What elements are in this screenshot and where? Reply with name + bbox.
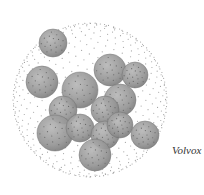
cell-dot <box>125 142 126 143</box>
cell-dot <box>86 44 87 45</box>
cell-dot <box>127 32 128 33</box>
cell-dot <box>70 162 71 163</box>
cell-dot <box>36 155 37 156</box>
daughter-colony <box>131 121 159 149</box>
cell-dot <box>94 48 95 49</box>
cell-dot <box>130 165 131 166</box>
cell-dot <box>146 84 147 85</box>
cell-dot <box>104 24 105 25</box>
cell-dot <box>163 78 164 79</box>
cell-dot <box>96 24 97 25</box>
cell-dot <box>157 71 158 72</box>
cell-dot <box>40 158 41 159</box>
cell-dot <box>32 139 33 140</box>
cell-dot <box>123 47 124 48</box>
cell-dot <box>114 28 115 29</box>
cell-dot <box>95 23 96 24</box>
cell-dot <box>72 168 73 169</box>
cell-dot <box>79 176 80 177</box>
cell-dot <box>144 52 145 53</box>
cell-dot <box>99 176 100 177</box>
cell-dot <box>115 43 116 44</box>
cell-dot <box>16 78 17 79</box>
cell-dot <box>153 113 154 114</box>
cell-dot <box>126 167 127 168</box>
cell-dot <box>28 93 29 94</box>
cell-dot <box>21 134 22 135</box>
cell-dot <box>132 163 133 164</box>
cell-dot <box>13 109 14 110</box>
cell-dot <box>111 166 112 167</box>
cell-dot <box>158 92 159 93</box>
cell-dot <box>102 51 103 52</box>
cell-dot <box>80 40 81 41</box>
cell-dot <box>110 170 111 171</box>
cell-dot <box>105 173 106 174</box>
cell-dot <box>159 68 160 69</box>
cell-dot <box>123 151 124 152</box>
cell-dot <box>64 165 65 166</box>
cell-dot <box>30 149 31 150</box>
cell-dot <box>142 155 143 156</box>
cell-dot <box>126 33 127 34</box>
cell-dot <box>130 34 131 35</box>
cell-dot <box>47 152 48 153</box>
cell-dot <box>26 57 27 58</box>
cell-dot <box>131 50 132 51</box>
cell-dot <box>86 175 87 176</box>
cell-dot <box>22 63 23 64</box>
cell-dot <box>82 24 83 25</box>
cell-dot <box>104 28 105 29</box>
cell-dot <box>136 153 137 154</box>
cell-dot <box>161 127 162 128</box>
cell-dot <box>78 23 79 24</box>
cell-dot <box>128 158 129 159</box>
cell-dot <box>100 36 101 37</box>
cell-dot <box>161 74 162 75</box>
cell-dot <box>34 152 35 153</box>
cell-dot <box>135 42 136 43</box>
cell-dot <box>86 69 87 70</box>
cell-dot <box>107 174 108 175</box>
cell-dot <box>105 26 106 27</box>
cell-dot <box>141 46 142 47</box>
cell-dot <box>147 109 148 110</box>
daughter-colonies <box>26 29 159 171</box>
cell-dot <box>26 56 27 57</box>
cell-dot <box>48 164 49 165</box>
cell-dot <box>75 37 76 38</box>
cell-dot <box>33 133 34 134</box>
cell-dot <box>107 40 108 41</box>
cell-dot <box>55 64 56 65</box>
cell-dot <box>79 160 80 161</box>
cell-dot <box>164 89 165 90</box>
cell-dot <box>135 160 136 161</box>
cell-dot <box>165 112 166 113</box>
cell-dot <box>70 26 71 27</box>
cell-dot <box>24 139 25 140</box>
cell-dot <box>157 63 158 64</box>
cell-dot <box>24 62 25 63</box>
cell-dot <box>128 162 129 163</box>
cell-dot <box>28 141 29 142</box>
cell-dot <box>19 130 20 131</box>
cell-dot <box>69 170 70 171</box>
cell-dot <box>13 94 14 95</box>
cell-dot <box>19 110 20 111</box>
volvox-illustration <box>0 0 204 195</box>
cell-dot <box>14 97 15 98</box>
cell-dot <box>65 27 66 28</box>
cell-dot <box>65 77 66 78</box>
cell-dot <box>97 57 98 58</box>
cell-dot <box>120 35 121 36</box>
cell-dot <box>143 45 144 46</box>
cell-dot <box>138 60 139 61</box>
cell-dot <box>130 145 131 146</box>
cell-dot <box>127 155 128 156</box>
cell-dot <box>154 59 155 60</box>
cell-dot <box>33 48 34 49</box>
cell-dot <box>74 174 75 175</box>
cell-dot <box>33 112 34 113</box>
cell-dot <box>153 57 154 58</box>
cell-dot <box>161 80 162 81</box>
